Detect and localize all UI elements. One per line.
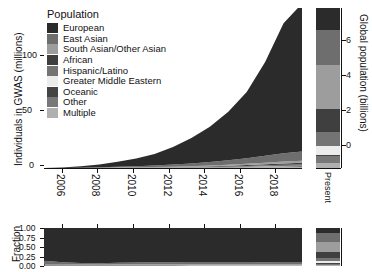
fraction-xtick-tickmark (204, 224, 205, 228)
legend-swatch-icon (47, 23, 58, 33)
legend: Population EuropeanEast AsianSouth Asian… (47, 8, 166, 118)
legend-item[interactable]: African (47, 55, 166, 66)
present-y-axis-line (341, 8, 342, 168)
fraction-ytick-label: 1.00 (19, 223, 36, 233)
legend-swatch-icon (47, 44, 58, 54)
present-segment-greater-middle-eastern (316, 146, 340, 155)
main-ytick-0: 0 (29, 160, 34, 170)
fraction-area-chart[interactable] (44, 228, 302, 266)
present-segment-european (316, 8, 340, 30)
present-fraction-segment-south-asian-other-asian (316, 242, 340, 253)
area-series-european (44, 228, 302, 263)
present-fraction-bar[interactable] (316, 228, 340, 266)
legend-item-label: European (63, 23, 104, 33)
legend-swatch-icon (47, 34, 58, 44)
main-xtick-tickmark (204, 169, 205, 173)
present-ytickmark-4 (342, 75, 346, 76)
main-xtick-tickmark (62, 169, 63, 173)
main-ytick-50: 50 (22, 105, 32, 115)
fraction-present-axis-line (341, 228, 342, 266)
legend-item-label: Other (63, 97, 87, 107)
legend-swatch-icon (47, 87, 58, 97)
figure: Individuals in GWAS (millions) 100 50 0 … (0, 0, 372, 272)
main-xtick-tickmark (97, 169, 98, 173)
legend-title: Population (47, 8, 166, 20)
present-fraction-segment-multiple (316, 265, 340, 266)
fraction-xtick-tickmark (97, 224, 98, 228)
main-xtick-label: 2014 (197, 174, 208, 196)
main-xtick-tickmark (169, 169, 170, 173)
main-xtick-label: 2010 (126, 174, 137, 196)
legend-item-label: Multiple (63, 108, 96, 118)
legend-item-label: East Asian (63, 34, 108, 44)
main-ytick-100: 100 (22, 50, 37, 60)
present-segment-african (316, 109, 340, 132)
present-x-axis-label: Present (323, 172, 333, 203)
fraction-ytick-label: 0.75 (19, 233, 36, 243)
present-segment-south-asian-other-asian (316, 65, 340, 109)
main-xtick-tickmark (240, 169, 241, 173)
legend-swatch-icon (47, 97, 58, 107)
legend-item-label: Oceanic (63, 87, 98, 97)
present-fraction-segment-east-asian (316, 233, 340, 241)
legend-item[interactable]: Multiple (47, 108, 166, 119)
main-xtick-label: 2008 (90, 174, 101, 196)
present-ytickmark-6 (342, 40, 346, 41)
present-ytick-4: 4 (346, 70, 351, 80)
legend-item-label: Hispanic/Latino (63, 66, 128, 76)
present-ytick-6: 6 (346, 35, 351, 45)
main-xtick-tickmark (133, 169, 134, 173)
present-segment-east-asian (316, 30, 340, 65)
present-ytickmark-2 (342, 110, 346, 111)
legend-item-label: African (63, 55, 93, 65)
legend-item-label: South Asian/Other Asian (63, 44, 166, 54)
main-x-axis-line (44, 168, 302, 169)
present-population-bar[interactable] (316, 8, 340, 168)
fraction-ytick-label: 0.00 (19, 261, 36, 271)
main-xtick-tickmark (275, 169, 276, 173)
legend-swatch-icon (47, 66, 58, 76)
main-xtick-label: 2006 (55, 174, 66, 196)
main-xtick-label: 2012 (162, 174, 173, 196)
present-segment-hispanic-latino (316, 132, 340, 146)
main-xtick-label: 2018 (268, 174, 279, 196)
present-y-axis-label: Global population (billions) (358, 14, 369, 132)
legend-item-label: Greater Middle Eastern (63, 76, 161, 86)
fraction-ytick-label: 0.25 (19, 252, 36, 262)
present-ytickmark-0 (342, 145, 346, 146)
fraction-ytick-label: 0.50 (19, 242, 36, 252)
fraction-xtick-tickmark (62, 224, 63, 228)
fraction-ytickmark (40, 266, 44, 267)
legend-item[interactable]: European (47, 23, 166, 34)
present-ytick-2: 2 (346, 105, 351, 115)
fraction-xtick-tickmark (169, 224, 170, 228)
fraction-xtick-tickmark (275, 224, 276, 228)
legend-swatch-icon (47, 108, 58, 118)
present-ytick-0: 0 (346, 140, 351, 150)
legend-item[interactable]: Greater Middle Eastern (47, 76, 166, 87)
main-xtick-label: 2016 (233, 174, 244, 196)
fraction-xtick-tickmark (240, 224, 241, 228)
legend-swatch-icon (47, 55, 58, 65)
legend-swatch-icon (47, 76, 58, 86)
present-x-axis-line (316, 168, 341, 169)
fraction-xtick-tickmark (133, 224, 134, 228)
